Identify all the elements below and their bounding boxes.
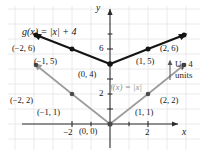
y-tick-label-6: 6 [99,44,104,53]
function-label-g: g(x) = |x| + 4 [22,27,77,37]
point-label-f-2-2: (2, 2) [160,96,178,105]
g-point-neg1-5 [70,47,75,52]
f-point-1-1 [146,92,151,97]
point-label-g-neg2-6: (−2, 6) [12,44,35,53]
point-label-f-0-0: (0, 0) [79,127,97,136]
absolute-value-shift-figure: g(x) = |x| + 4 f(x) = |x| y x −2 2 2 6 (… [0,0,211,157]
x-tick-label-2: 2 [145,128,150,137]
y-axis [107,9,113,148]
x-axis-label: x [182,128,186,138]
x-axis-arrow [172,121,178,126]
g-point-0-4 [107,61,113,67]
x-axis [22,121,178,127]
f-point-0-0 [107,121,112,126]
shift-annotation-line2: units [175,70,193,80]
point-label-f-neg2-2: (−2, 2) [10,96,33,105]
g-point-1-5 [146,47,151,52]
function-label-f: f(x) = |x| [110,83,142,92]
f-point-neg1-1 [70,92,75,97]
y-tick-label-2: 2 [99,89,104,98]
y-axis-arrow [107,9,112,15]
point-label-g-2-6: (2, 6) [160,44,178,53]
point-label-g-neg1-5: (−1, 5) [34,57,57,66]
point-label-f-1-1: (1, 1) [135,108,153,117]
shift-annotation-line1: Up 4 [175,59,193,69]
point-label-g-1-5: (1, 5) [136,57,154,66]
point-label-f-neg1-1: (−1, 1) [37,108,60,117]
point-label-g-0-4: (0, 4) [78,70,96,79]
g-point-2-6 [182,33,187,38]
x-tick-label-neg2: −2 [63,128,73,137]
y-axis-label: y [96,4,100,14]
